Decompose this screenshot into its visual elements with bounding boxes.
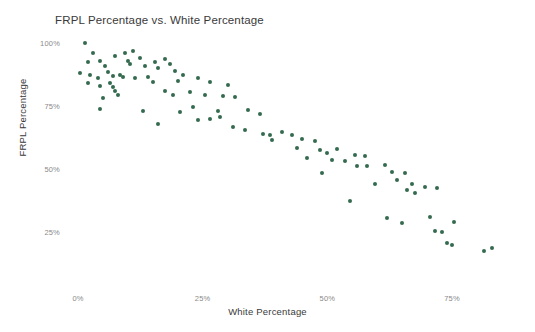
y-tick-label: 25% <box>44 228 60 237</box>
data-point <box>320 171 324 175</box>
data-point <box>138 56 142 60</box>
data-point <box>98 107 102 111</box>
data-point <box>163 89 167 93</box>
data-point <box>78 71 82 75</box>
data-point <box>363 154 367 158</box>
data-point <box>335 147 339 151</box>
data-point <box>403 171 407 175</box>
data-point <box>353 153 357 157</box>
data-point <box>203 93 207 97</box>
data-point <box>178 110 182 114</box>
data-point <box>156 122 160 126</box>
data-point <box>116 93 120 97</box>
data-point <box>111 74 115 78</box>
data-point <box>428 215 432 219</box>
data-point <box>290 133 294 137</box>
data-point <box>88 73 92 77</box>
data-point <box>231 125 235 129</box>
data-point <box>163 57 167 61</box>
data-point <box>191 105 195 109</box>
data-point <box>128 62 132 66</box>
data-point <box>313 139 317 143</box>
data-point <box>410 182 414 186</box>
scatter-chart: FRPL Percentage vs. White Percentage 100… <box>0 0 535 332</box>
data-point <box>141 109 145 113</box>
data-point <box>168 62 172 66</box>
data-point <box>390 170 394 174</box>
data-point <box>383 163 387 167</box>
data-point <box>343 159 347 163</box>
data-point <box>423 185 427 189</box>
data-point <box>86 60 90 64</box>
x-tick-label: 0% <box>72 294 83 303</box>
data-point <box>233 95 237 99</box>
data-point <box>373 182 377 186</box>
data-point <box>146 75 150 79</box>
data-point <box>86 81 90 85</box>
data-point <box>83 41 87 45</box>
data-point <box>176 79 180 83</box>
x-tick-label: 50% <box>320 294 336 303</box>
data-point <box>113 54 117 58</box>
data-point <box>435 186 439 190</box>
data-point <box>400 221 404 225</box>
chart-title: FRPL Percentage vs. White Percentage <box>55 14 264 26</box>
data-point <box>103 64 107 68</box>
data-point <box>153 60 157 64</box>
data-point <box>243 128 247 132</box>
data-point <box>300 137 304 141</box>
data-point <box>133 76 137 80</box>
data-point <box>413 191 417 195</box>
y-axis-ticks: 100%75%50%25% <box>26 0 60 332</box>
data-point <box>330 158 334 162</box>
data-point <box>143 64 147 68</box>
y-tick-label: 50% <box>44 165 60 174</box>
data-point <box>171 93 175 97</box>
y-tick-label: 75% <box>44 102 60 111</box>
data-point <box>121 75 125 79</box>
data-point <box>98 59 102 63</box>
data-point <box>325 151 329 155</box>
data-point <box>208 117 212 121</box>
data-point <box>433 229 437 233</box>
data-point <box>151 80 155 84</box>
data-point <box>258 112 262 116</box>
data-point <box>318 148 322 152</box>
y-axis-label: FRPL Percentage <box>17 58 28 178</box>
data-point <box>450 243 454 247</box>
data-point <box>196 76 200 80</box>
data-point <box>268 133 272 137</box>
data-point <box>91 51 95 55</box>
data-point <box>405 188 409 192</box>
data-point <box>270 138 274 142</box>
data-point <box>156 66 160 70</box>
data-point <box>216 109 220 113</box>
data-point <box>96 76 100 80</box>
y-tick-label: 100% <box>40 39 60 48</box>
plot-area <box>78 43 452 232</box>
data-point <box>246 108 250 112</box>
data-point <box>482 249 486 253</box>
data-point <box>440 230 444 234</box>
data-point <box>295 146 299 150</box>
data-point <box>196 118 200 122</box>
data-point <box>355 164 359 168</box>
data-point <box>181 73 185 77</box>
x-axis-label: White Percentage <box>0 306 535 317</box>
data-point <box>131 49 135 53</box>
data-point <box>173 69 177 73</box>
data-point <box>188 90 192 94</box>
data-point <box>280 130 284 134</box>
data-point <box>452 220 456 224</box>
data-point <box>218 115 222 119</box>
data-point <box>101 96 105 100</box>
data-point <box>221 94 225 98</box>
data-point <box>261 132 265 136</box>
data-point <box>490 246 494 250</box>
data-point <box>226 83 230 87</box>
data-point <box>385 216 389 220</box>
data-point <box>98 84 102 88</box>
data-point <box>208 80 212 84</box>
data-point <box>395 178 399 182</box>
data-point <box>365 164 369 168</box>
